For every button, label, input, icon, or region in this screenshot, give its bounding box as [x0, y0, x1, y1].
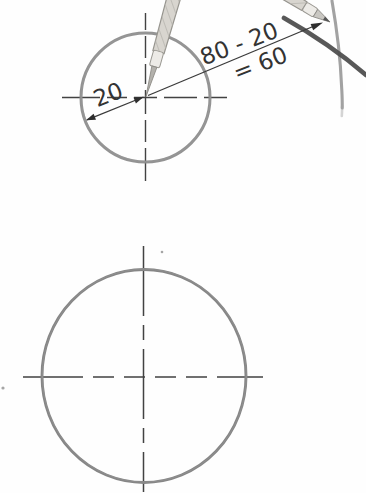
drawing-canvas: 20 80 - 20 = 60: [0, 0, 366, 493]
paper-speck-top: [161, 251, 164, 254]
paper-speck-left: [1, 386, 4, 389]
radius-60-arrowhead: [311, 23, 323, 31]
radius-20-arrowhead-outer: [86, 114, 96, 121]
compass-needle-shaft-hatch: [152, 0, 185, 54]
dark-radius-line: [284, 18, 366, 75]
compass-pencil-cone: [313, 9, 332, 25]
compass-construction-drawing: 20 80 - 20 = 60: [0, 0, 366, 493]
radius-20-arrowhead-center: [134, 97, 144, 104]
small-circle-figure: 20 80 - 20 = 60: [62, 0, 366, 181]
compass-needle-ferrule: [149, 50, 163, 68]
large-circle-figure: [23, 246, 263, 492]
